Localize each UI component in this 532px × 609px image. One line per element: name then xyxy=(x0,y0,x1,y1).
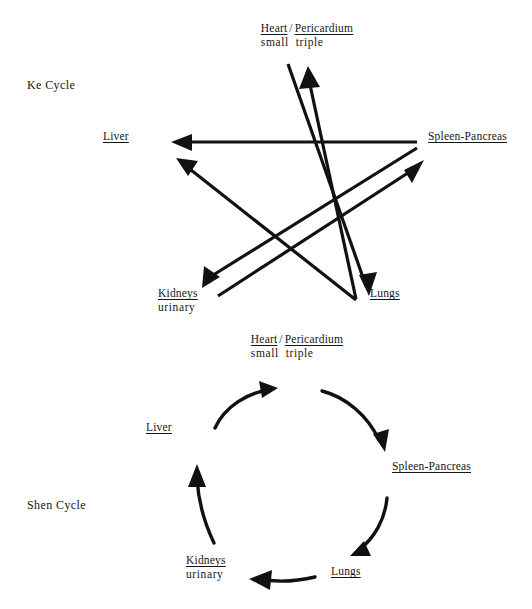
ke-node-heart-sub-primary: small xyxy=(261,36,289,48)
ke-node-heart-sub-secondary: triple xyxy=(296,36,324,48)
ke-edge-kidneys-to-heart xyxy=(176,66,369,300)
shen-node-lungs: Lungs xyxy=(331,564,361,578)
shen-edge-kidneys-to-liver xyxy=(188,464,214,543)
ke-node-heart-secondary: Pericardium xyxy=(295,22,353,34)
shen-node-kidneys-sub: urinary xyxy=(186,567,226,581)
shen-edge-lungs-to-kidneys xyxy=(249,570,315,590)
shen-cycle-arrows xyxy=(0,0,532,609)
shen-node-lungs-primary: Lungs xyxy=(331,565,361,577)
ke-cycle-label: Ke Cycle xyxy=(27,78,75,93)
ke-edge-lungs-to-liver xyxy=(176,158,356,300)
ke-node-lungs-primary: Lungs xyxy=(370,287,400,299)
ke-edge-spleen-to-liver xyxy=(171,134,417,151)
shen-node-kidneys: Kidneys urinary xyxy=(186,553,226,581)
shen-node-heart-sub-secondary: triple xyxy=(286,347,314,359)
ke-edge-heart-to-lungs xyxy=(288,64,377,296)
shen-node-spleen-primary: Spleen-Pancreas xyxy=(392,460,471,472)
shen-node-heart-sub: small triple xyxy=(251,346,343,360)
shen-edge-liver-to-heart xyxy=(215,381,278,428)
ke-node-liver-primary: Liver xyxy=(103,130,129,142)
ke-edge-kidneys-to-spleen xyxy=(177,160,424,296)
shen-node-heart: Heart/Pericardium small triple xyxy=(251,332,343,360)
ke-edge-spleen-to-kidneys xyxy=(202,148,417,288)
shen-node-heart-separator: / xyxy=(277,333,284,345)
shen-node-liver: Liver xyxy=(146,420,172,434)
shen-node-heart-secondary: Pericardium xyxy=(285,333,343,345)
shen-cycle-label: Shen Cycle xyxy=(27,498,86,513)
shen-node-kidneys-primary: Kidneys xyxy=(186,554,226,566)
ke-cycle-arrows xyxy=(0,0,532,609)
ke-node-spleen-primary: Spleen-Pancreas xyxy=(428,130,507,142)
ke-node-heart: Heart/Pericardium small triple xyxy=(261,21,353,49)
ke-node-lungs: Lungs xyxy=(370,286,400,300)
shen-node-heart-primary: Heart xyxy=(251,333,278,345)
shen-edge-heart-to-spleen xyxy=(322,391,389,452)
ke-node-kidneys-primary: Kidneys xyxy=(158,287,198,299)
shen-node-liver-primary: Liver xyxy=(146,421,172,433)
ke-node-heart-primary: Heart xyxy=(261,22,288,34)
ke-node-kidneys-sub: urinary xyxy=(158,300,198,314)
ke-node-heart-separator: / xyxy=(287,22,294,34)
shen-node-spleen: Spleen-Pancreas xyxy=(392,459,471,473)
shen-edge-spleen-to-lungs xyxy=(350,498,387,556)
ke-node-liver: Liver xyxy=(103,129,129,143)
shen-node-heart-sub-primary: small xyxy=(251,347,279,359)
ke-node-kidneys: Kidneys urinary xyxy=(158,286,198,314)
ke-node-spleen: Spleen-Pancreas xyxy=(428,129,507,143)
diagram-canvas: Ke Cycle Heart/Pericardium small triple … xyxy=(0,0,532,609)
ke-node-heart-sub: small triple xyxy=(261,35,353,49)
